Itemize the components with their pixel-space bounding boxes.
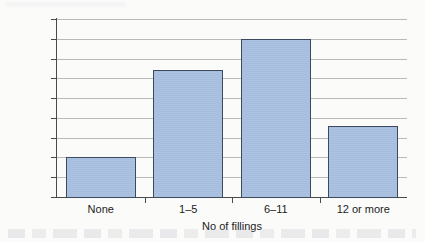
gridline [57, 98, 407, 99]
y-axis-tick [51, 39, 56, 40]
y-axis-tick [51, 157, 56, 158]
x-axis-category-label: 6–11 [232, 203, 320, 215]
y-axis-tick [51, 118, 56, 119]
y-axis-tick [51, 59, 56, 60]
x-axis-category-label: None [57, 203, 145, 215]
x-axis-category-label: 1–5 [145, 203, 233, 215]
bar [328, 126, 398, 198]
y-axis-tick [51, 138, 56, 139]
y-axis-tick [51, 197, 56, 198]
x-axis-title: No of fillings [57, 220, 407, 232]
y-axis-tick [51, 177, 56, 178]
y-axis-tick [51, 98, 56, 99]
gridline [57, 78, 407, 79]
plot-area [57, 19, 407, 197]
gridline [57, 19, 407, 20]
y-axis-tick [51, 78, 56, 79]
gridline [57, 39, 407, 40]
bar [153, 70, 223, 198]
scan-artifact-top [6, 2, 126, 7]
bar-chart-figure: Proportion of adults 051015202530354045N… [0, 0, 425, 242]
x-axis-category-label: 12 or more [320, 203, 408, 215]
gridline [57, 118, 407, 119]
gridline [57, 59, 407, 60]
bar [241, 39, 311, 198]
y-axis-tick [51, 19, 56, 20]
bar [66, 157, 136, 198]
